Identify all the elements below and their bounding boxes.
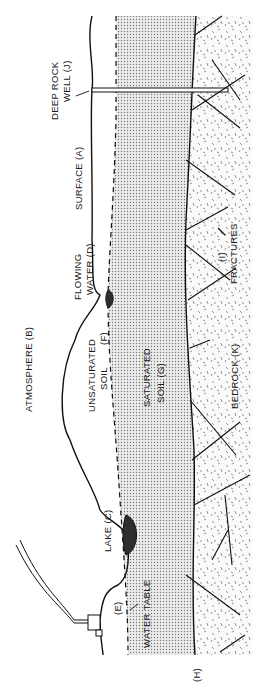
groundwater-diagram: DEEP ROCK WELL (J) SURFACE (A) FRACTURES… bbox=[0, 0, 272, 695]
well-pointer-arrow bbox=[76, 91, 89, 96]
water-table-marker: (E) bbox=[112, 601, 123, 615]
unsaturated-label-line2: SOIL bbox=[98, 367, 109, 390]
saturated-label-line1: SATURATED bbox=[141, 348, 152, 407]
water-table-label: WATER TABLE bbox=[141, 580, 152, 648]
unsaturated-label-line1: UNSATURATED bbox=[86, 339, 97, 412]
saturated-soil-region bbox=[108, 16, 196, 655]
fractures-marker: (I) bbox=[216, 252, 227, 262]
saturated-label-line2: SOIL (G) bbox=[155, 363, 166, 403]
deep-rock-well bbox=[92, 88, 228, 92]
flowing-water-label-line1: FLOWING bbox=[72, 254, 83, 300]
atmosphere-label: ATMOSPHERE (B) bbox=[23, 327, 34, 412]
flowing-water-label-line2: WATER (D) bbox=[84, 243, 95, 295]
well-label-line1: DEEP ROCK bbox=[49, 61, 60, 120]
unsaturated-marker: (F) bbox=[98, 332, 109, 345]
well-label-line2: WELL (J) bbox=[61, 60, 72, 102]
bedrock-boundary-marker: (H) bbox=[191, 668, 202, 682]
factory-icon bbox=[16, 540, 102, 636]
bedrock-label: BEDROCK (K) bbox=[229, 343, 240, 409]
fractures-label: FRACTURES bbox=[228, 223, 239, 284]
lake-label: LAKE (C) bbox=[102, 509, 113, 552]
surface-label: SURFACE (A) bbox=[73, 147, 84, 210]
